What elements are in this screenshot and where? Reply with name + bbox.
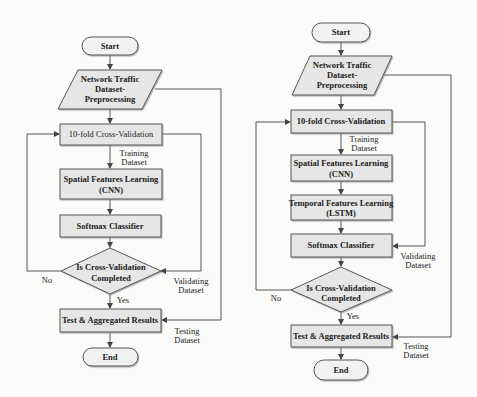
right-validating-label-2: Dataset <box>405 260 431 270</box>
flowchart-canvas: Start Network Traffic Dataset- Preproces… <box>0 0 477 397</box>
right-test-label: Test & Aggregated Results <box>293 331 390 341</box>
right-no-label: No <box>271 293 281 303</box>
left-cv-label: 10-fold Cross-Validation <box>69 129 154 139</box>
right-nodes: Start Network Traffic Dataset- Preproces… <box>271 23 436 380</box>
arrow-r-decision-no-loop <box>256 122 291 290</box>
arrow-decision-no-loop <box>27 134 61 271</box>
right-yes-label: Yes <box>347 311 359 321</box>
right-softmax-label: Softmax Classifier <box>308 240 375 250</box>
arrow-r-testing-dataset <box>384 75 451 337</box>
arrow-validating-dataset <box>161 134 201 271</box>
right-spatial-line1: Spatial Features Learning <box>294 158 390 168</box>
left-input-line3: Preprocessing <box>85 94 136 104</box>
right-testing-label-2: Dataset <box>403 350 429 360</box>
left-decision-line1: Is Cross-Validation <box>76 262 146 272</box>
right-temporal-line1: Temporal Features Learning <box>289 198 394 208</box>
right-end-label: End <box>333 365 348 375</box>
left-start-label: Start <box>101 41 120 51</box>
left-validating-label-2: Dataset <box>178 285 204 295</box>
left-spatial-line1: Spatial Features Learning <box>64 174 160 184</box>
right-input-line3: Preprocessing <box>317 80 368 90</box>
right-input-line1: Network Traffic <box>313 60 372 70</box>
right-input-line2: Dataset- <box>327 70 357 80</box>
left-nodes: Start Network Traffic Dataset- Preproces… <box>42 37 209 366</box>
right-training-label-2: Dataset <box>351 143 377 153</box>
left-input-line2: Dataset- <box>95 84 125 94</box>
left-decision-line2: Completed <box>91 273 131 283</box>
left-testing-label-2: Dataset <box>174 335 200 345</box>
left-end-label: End <box>102 352 117 362</box>
right-decision-line2: Completed <box>321 293 361 303</box>
right-temporal-line2: (LSTM) <box>326 208 356 218</box>
right-cv-label: 10-fold Cross-Validation <box>297 116 386 126</box>
left-softmax-label: Softmax Classifier <box>77 221 144 231</box>
left-training-label-2: Dataset <box>121 157 147 167</box>
left-no-label: No <box>42 275 52 285</box>
left-input-line1: Network Traffic <box>81 74 140 84</box>
left-yes-label: Yes <box>117 295 129 305</box>
left-test-label: Test & Aggregated Results <box>62 315 159 325</box>
right-start-label: Start <box>332 27 351 37</box>
right-decision-line1: Is Cross-Validation <box>306 283 376 293</box>
arrow-r-validating-dataset <box>392 122 425 246</box>
right-spatial-line2: (CNN) <box>329 169 353 179</box>
left-spatial-line2: (CNN) <box>99 185 123 195</box>
